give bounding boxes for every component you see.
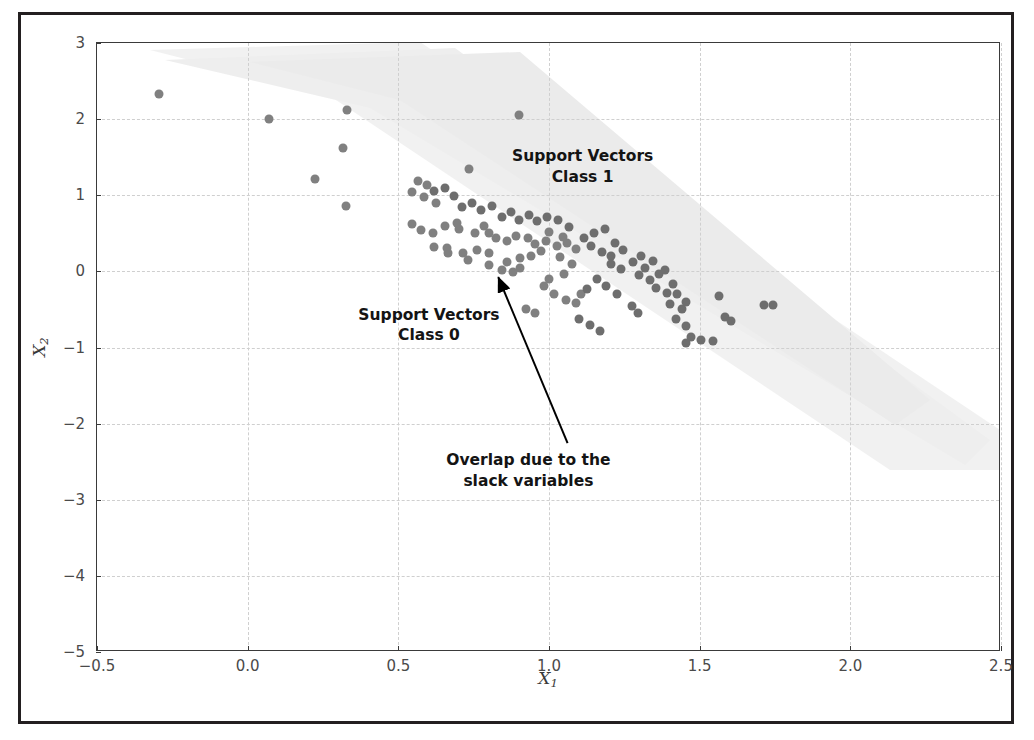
data-point-class-1 xyxy=(697,335,706,344)
y-tick-label: −5 xyxy=(63,643,85,661)
data-point-class-1 xyxy=(564,223,573,232)
data-point-class-1 xyxy=(579,233,588,242)
x-tickmark xyxy=(248,646,249,651)
data-point-class-0 xyxy=(545,227,554,236)
data-point-class-1 xyxy=(457,203,466,212)
data-point-class-1 xyxy=(662,288,671,297)
data-point-class-0 xyxy=(453,218,462,227)
data-point-class-0 xyxy=(511,231,520,240)
plot-area: −0.50.00.51.01.52.02.5−5−4−3−2−10123 xyxy=(96,42,1000,651)
x-tickmark xyxy=(398,646,399,651)
data-point-class-0 xyxy=(561,295,570,304)
y-tick-label: 0 xyxy=(75,262,85,280)
data-point-class-0 xyxy=(432,198,441,207)
y-gridline xyxy=(97,424,999,425)
y-tickmark xyxy=(96,271,101,272)
data-point-class-1 xyxy=(682,297,691,306)
data-point-class-0 xyxy=(311,174,320,183)
data-point-class-0 xyxy=(516,264,525,273)
data-point-class-1 xyxy=(617,265,626,274)
data-point-class-1 xyxy=(641,263,650,272)
data-point-class-1 xyxy=(612,290,621,299)
data-point-class-0 xyxy=(526,252,535,261)
data-point-class-1 xyxy=(618,246,627,255)
data-point-class-0 xyxy=(498,265,507,274)
data-point-class-1 xyxy=(727,316,736,325)
data-point-class-1 xyxy=(671,314,680,323)
data-point-class-1 xyxy=(600,224,609,233)
data-point-class-0 xyxy=(416,225,425,234)
data-point-class-1 xyxy=(682,338,691,347)
y-axis-label: X2 xyxy=(29,337,51,356)
data-point-class-1 xyxy=(665,300,674,309)
data-point-class-1 xyxy=(582,284,591,293)
data-point-class-1 xyxy=(636,252,645,261)
data-point-class-1 xyxy=(606,259,615,268)
x-tick-label: 1.5 xyxy=(688,657,712,675)
data-point-class-1 xyxy=(575,314,584,323)
data-point-class-0 xyxy=(572,244,581,253)
data-point-class-1 xyxy=(585,320,594,329)
data-point-class-0 xyxy=(567,259,576,268)
data-point-class-0 xyxy=(264,115,273,124)
x-gridline xyxy=(700,43,701,650)
data-point-class-1 xyxy=(450,192,459,201)
figure-container: −0.50.00.51.01.52.02.5−5−4−3−2−10123 X1 … xyxy=(0,0,1034,740)
x-tick-label: 2.5 xyxy=(989,657,1013,675)
data-point-class-0 xyxy=(341,201,350,210)
x-gridline xyxy=(549,43,550,650)
x-tick-label: 2.0 xyxy=(838,657,862,675)
annotation-overlap-slack-variables: Overlap due to the slack variables xyxy=(446,450,610,491)
y-tickmark xyxy=(96,348,101,349)
y-tickmark xyxy=(96,195,101,196)
y-gridline xyxy=(97,348,999,349)
data-point-class-1 xyxy=(507,207,516,216)
data-point-class-0 xyxy=(572,299,581,308)
y-tickmark xyxy=(96,500,101,501)
data-point-class-1 xyxy=(602,281,611,290)
data-point-class-1 xyxy=(587,242,596,251)
data-point-class-1 xyxy=(769,300,778,309)
y-tick-label: 2 xyxy=(75,110,85,128)
data-point-class-0 xyxy=(492,233,501,242)
x-tickmark xyxy=(1001,646,1002,651)
data-point-class-0 xyxy=(465,164,474,173)
y-gridline xyxy=(97,195,999,196)
data-point-class-0 xyxy=(419,192,428,201)
data-point-class-0 xyxy=(441,221,450,230)
data-point-class-1 xyxy=(597,248,606,257)
y-tick-label: −2 xyxy=(63,415,85,433)
y-axis-label-text: X xyxy=(29,345,49,357)
x-gridline xyxy=(850,43,851,650)
data-point-class-0 xyxy=(563,239,572,248)
y-tick-label: 3 xyxy=(75,34,85,52)
y-gridline xyxy=(97,576,999,577)
data-point-class-0 xyxy=(484,261,493,270)
y-tick-label: −4 xyxy=(63,567,85,585)
y-tick-label: 1 xyxy=(75,186,85,204)
y-axis-label-sub: 2 xyxy=(37,337,51,344)
data-point-class-1 xyxy=(430,186,439,195)
data-point-class-0 xyxy=(552,242,561,251)
data-point-class-0 xyxy=(484,248,493,257)
data-point-class-0 xyxy=(407,188,416,197)
data-point-class-1 xyxy=(543,212,552,221)
data-point-class-0 xyxy=(343,105,352,114)
data-point-class-1 xyxy=(441,183,450,192)
data-point-class-1 xyxy=(715,292,724,301)
data-point-class-0 xyxy=(531,309,540,318)
data-point-class-1 xyxy=(525,211,534,220)
y-gridline xyxy=(97,500,999,501)
data-point-class-1 xyxy=(648,256,657,265)
data-point-class-1 xyxy=(661,265,670,274)
y-gridline xyxy=(97,119,999,120)
data-point-class-1 xyxy=(487,201,496,210)
data-point-class-0 xyxy=(522,305,531,314)
data-point-class-0 xyxy=(407,220,416,229)
y-tickmark xyxy=(96,576,101,577)
data-point-class-0 xyxy=(444,248,453,257)
y-tickmark xyxy=(96,43,101,44)
y-tick-label: −3 xyxy=(63,491,85,509)
data-point-class-1 xyxy=(596,326,605,335)
data-point-class-1 xyxy=(477,206,486,215)
